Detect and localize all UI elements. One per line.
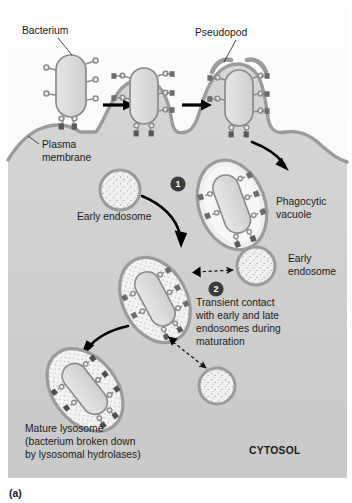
bacterium-body [130,68,158,124]
label-bacterium: Bacterium [22,25,68,36]
label-mature-lysosome-line1: Mature lysosome [25,423,104,434]
early-endosome-membrane [100,170,140,210]
late-endosome-lower [199,368,235,404]
label-plasma-membrane-line1: Plasma [42,139,77,150]
label-plasma-membrane-line2: membrane [42,152,91,163]
label-transient-line2: with early and late [195,310,279,321]
label-transient-line4: maturation [196,336,245,347]
label-mature-lysosome-line2: (bacterium broken down [25,436,136,447]
label-early-endosome-right-line2: endosome [288,266,336,277]
step-badge-2-number: 2 [213,284,218,294]
figure-caption: (a) [9,487,22,499]
label-early-endosome-left: Early endosome [77,211,152,222]
early-endosome-membrane [237,247,275,285]
step-badge-1-number: 1 [175,179,180,189]
label-phagocytic-vacuole-line1: Phagocytic [276,196,326,207]
label-phagocytic-vacuole-line2: vacuole [276,209,312,220]
bacterium-body [225,70,253,126]
label-cytosol: CYTOSOL [249,445,301,456]
early-endosome-left [100,170,140,210]
early-endosome-right [237,247,275,285]
label-pseudopod: Pseudopod [195,27,247,38]
phagocytosis-diagram: 1 [0,0,352,503]
late-endosome-membrane [199,368,235,404]
label-transient-line3: endosomes during [196,323,281,334]
bacterium-body [56,55,86,117]
label-mature-lysosome-line3: by lysosomal hydrolases) [25,449,141,460]
step-badge-1: 1 [170,176,185,191]
label-early-endosome-right-line1: Early [288,253,312,264]
phagocytosis-figure: 1 [0,0,352,503]
label-transient-line1: Transient contact [196,297,275,308]
step-badge-2: 2 [208,281,223,296]
